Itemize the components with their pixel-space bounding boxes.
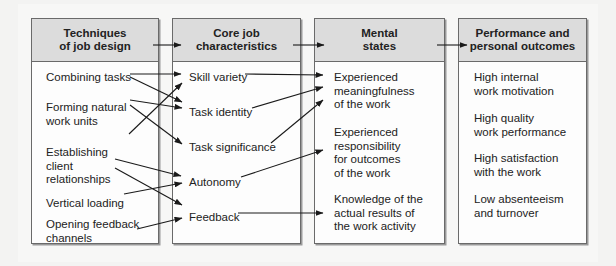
column-header: Techniques of job design	[32, 19, 158, 62]
item-knowledge-of-results: Knowledge of the actual results of the w…	[334, 193, 423, 234]
item-establishing-client-relationships: Establishing client relationships	[46, 146, 111, 187]
item-feedback: Feedback	[189, 211, 240, 225]
item-combining-tasks: Combining tasks	[46, 71, 131, 85]
mental-states-box: Mental states Experienced meaningfulness…	[314, 18, 445, 244]
item-opening-feedback-channels: Opening feedback channels	[46, 218, 139, 245]
item-experienced-meaningfulness: Experienced meaningfulness of the work	[334, 71, 415, 112]
column-header: Mental states	[315, 19, 444, 62]
item-forming-natural-work-units: Forming natural work units	[46, 101, 127, 128]
item-low-absenteeism: Low absenteeism and turnover	[474, 193, 564, 220]
item-task-identity: Task identity	[189, 106, 252, 120]
techniques-of-job-design-box: Techniques of job design Combining tasks…	[31, 18, 159, 244]
item-high-internal-motivation: High internal work motivation	[474, 71, 554, 98]
item-high-quality-performance: High quality work performance	[474, 112, 566, 139]
column-header: Performance and personal outcomes	[459, 19, 586, 62]
core-job-characteristics-box: Core job characteristics Skill variety T…	[172, 18, 301, 244]
item-vertical-loading: Vertical loading	[46, 197, 124, 211]
item-experienced-responsibility: Experienced responsibility for outcomes …	[334, 126, 400, 180]
item-task-significance: Task significance	[189, 141, 276, 155]
column-header: Core job characteristics	[173, 19, 300, 62]
item-skill-variety: Skill variety	[189, 71, 247, 85]
item-autonomy: Autonomy	[189, 176, 241, 190]
performance-and-personal-outcomes-box: Performance and personal outcomes High i…	[458, 18, 587, 244]
item-high-satisfaction: High satisfaction with the work	[474, 152, 558, 179]
